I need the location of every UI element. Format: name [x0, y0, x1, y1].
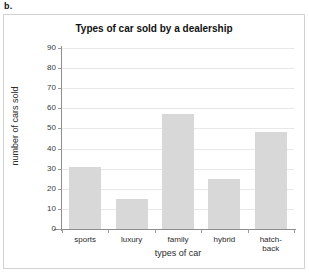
y-tick-label-wrap: 30 — [32, 165, 56, 173]
x-tick-mark — [294, 229, 295, 233]
y-tick-label-wrap: 80 — [32, 64, 56, 72]
x-tick-mark — [201, 229, 202, 233]
y-tick-label: 20 — [36, 185, 56, 193]
y-tick-label: 50 — [36, 124, 56, 132]
bar[interactable] — [208, 179, 240, 229]
y-tick-label: 80 — [36, 64, 56, 72]
y-axis-title: number of cars sold — [10, 71, 20, 181]
x-tick-mark — [62, 229, 63, 233]
y-tick-label-wrap: 60 — [32, 104, 56, 112]
x-axis-line — [54, 229, 296, 230]
x-tick-mark — [155, 229, 156, 233]
y-tick-label: 70 — [36, 84, 56, 92]
bar[interactable] — [162, 114, 194, 229]
bar[interactable] — [255, 132, 287, 229]
gridline — [62, 68, 294, 69]
x-tick-label: hybrid — [201, 235, 247, 244]
x-tick-label: family — [155, 235, 201, 244]
y-tick-label-wrap: 50 — [32, 124, 56, 132]
x-tick-label: sports — [62, 235, 108, 244]
x-tick-mark — [248, 229, 249, 233]
chart-frame: Types of car sold by a dealership 010203… — [3, 14, 305, 269]
part-label: b. — [4, 1, 12, 11]
y-tick-label: 40 — [36, 145, 56, 153]
chart-title: Types of car sold by a dealership — [4, 23, 304, 34]
bar[interactable] — [116, 199, 148, 229]
y-tick-label-wrap: 90 — [32, 44, 56, 52]
gridline — [62, 108, 294, 109]
x-tick-label-line: hybrid — [201, 235, 247, 244]
x-axis-title: types of car — [62, 248, 294, 258]
bar[interactable] — [69, 167, 101, 229]
y-tick-label-wrap: 10 — [32, 205, 56, 213]
x-tick-label-line: family — [155, 235, 201, 244]
x-tick-mark — [108, 229, 109, 233]
x-tick-label-line: sports — [62, 235, 108, 244]
plot-area — [62, 48, 294, 229]
x-tick-label-line: luxury — [108, 235, 154, 244]
y-tick-label: 0 — [36, 225, 56, 233]
y-tick-label: 60 — [36, 104, 56, 112]
x-tick-label: luxury — [108, 235, 154, 244]
x-tick-label-line: hatch- — [248, 235, 294, 244]
gridline — [62, 48, 294, 49]
y-tick-label: 10 — [36, 205, 56, 213]
gridline — [62, 88, 294, 89]
y-tick-label-wrap: 40 — [32, 145, 56, 153]
y-tick-label-wrap: 20 — [32, 185, 56, 193]
y-tick-label: 30 — [36, 165, 56, 173]
y-tick-label-wrap: 0 — [32, 225, 56, 233]
y-tick-label: 90 — [36, 44, 56, 52]
y-tick-label-wrap: 70 — [32, 84, 56, 92]
